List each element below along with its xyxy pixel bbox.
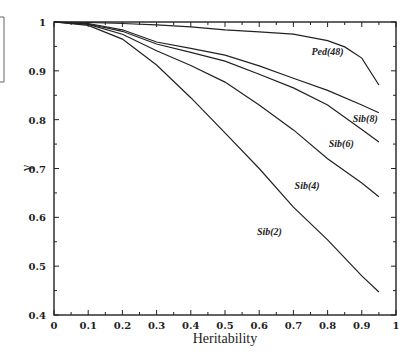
x-tick-label: 0 xyxy=(51,320,58,331)
y-tick-label: 0.9 xyxy=(29,66,46,77)
x-tick-label: 0.2 xyxy=(114,320,131,331)
x-tick-labels: 00.10.20.30.40.50.60.70.80.91 xyxy=(51,320,400,331)
series-label-sib-6: Sib(6) xyxy=(329,138,354,150)
x-tick-label: 0.6 xyxy=(250,320,267,331)
x-tick-label: 0.9 xyxy=(353,320,370,331)
series-label-ped-48: Ped(48) xyxy=(311,46,343,58)
series-annotations: Ped(48)Sib(8)Sib(6)Sib(4)Sib(2) xyxy=(257,46,378,238)
y-tick-label: 0.4 xyxy=(29,310,46,321)
y-tick-label: 1 xyxy=(39,17,46,28)
series-label-sib-4: Sib(4) xyxy=(295,180,320,192)
x-tick-label: 0.8 xyxy=(319,320,336,331)
chart: 00.10.20.30.40.50.60.70.80.91 0.40.50.60… xyxy=(0,0,420,359)
x-tick-label: 1 xyxy=(393,320,400,331)
series-label-sib-8: Sib(8) xyxy=(353,113,378,125)
y-tick-label: 0.5 xyxy=(29,261,46,272)
series-line-sib-8 xyxy=(54,22,379,113)
series-label-sib-2: Sib(2) xyxy=(257,226,282,238)
y-tick-label: 0.6 xyxy=(29,212,46,223)
series-line-sib-2 xyxy=(54,22,379,292)
x-tick-label: 0.3 xyxy=(148,320,165,331)
x-tick-label: 0.7 xyxy=(285,320,302,331)
plot-frame xyxy=(54,22,396,315)
y-tick-label: 0.8 xyxy=(29,115,46,126)
y-axis-title: γ xyxy=(19,165,34,172)
x-tick-label: 0.1 xyxy=(79,320,96,331)
axis-ticks xyxy=(54,22,396,315)
x-tick-label: 0.4 xyxy=(182,320,199,331)
series-lines xyxy=(54,22,379,292)
x-axis-title: Heritability xyxy=(193,331,258,346)
cropped-box-fragment xyxy=(0,17,4,82)
x-tick-label: 0.5 xyxy=(216,320,233,331)
